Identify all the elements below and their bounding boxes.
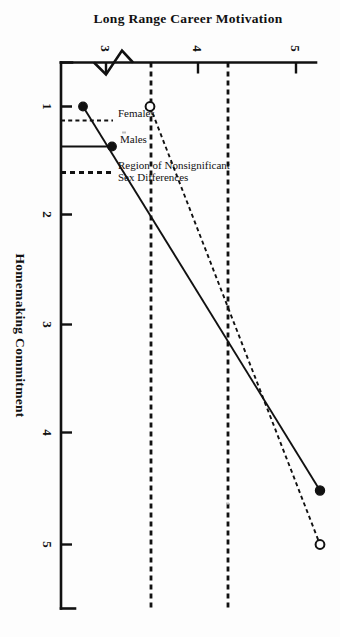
females-point-x5 (316, 540, 325, 549)
x-tick-label-2: 2 (40, 211, 55, 218)
legend-label-females: Females (118, 106, 155, 118)
males-point-x1 (79, 102, 88, 111)
scan-speck-bottom (122, 131, 126, 133)
legend-label-region-line1: Region of Nonsignificant (118, 158, 230, 170)
x-tick-label-3: 3 (40, 321, 55, 328)
nonsignificant-region (151, 62, 228, 608)
x-axis-title: Homemaking Commitment (13, 253, 28, 417)
y-axis-title: Long Range Career Motivation (93, 10, 282, 25)
males-point-x5 (315, 485, 324, 494)
line-chart-svg: 1 2 3 4 5 Homemaking Commitment 3 (0, 0, 340, 637)
y-tick-label-5: 5 (288, 45, 303, 52)
y-axis: 3 4 5 Long Range Career Motivation (61, 10, 316, 74)
rotated-figure-stage: 1 2 3 4 5 Homemaking Commitment 3 (0, 0, 340, 637)
y-tick-label-4: 4 (190, 45, 205, 52)
figure-page: 1 2 3 4 5 Homemaking Commitment 3 (0, 0, 340, 637)
legend-item-females: Females (61, 106, 155, 120)
x-tick-label-4: 4 (40, 429, 55, 436)
x-axis: 1 2 3 4 5 Homemaking Commitment (13, 62, 75, 608)
legend: Females Males Region of Nonsignificant S… (61, 106, 230, 182)
legend-swatch-males-marker (108, 142, 117, 151)
legend-label-males: Males (120, 132, 147, 144)
legend-item-region: Region of Nonsignificant Sex Differences (61, 158, 230, 182)
y-tick-label-3: 3 (98, 45, 113, 52)
scan-speck-top (226, 502, 229, 504)
x-tick-label-1: 1 (40, 103, 55, 110)
x-tick-label-5: 5 (40, 541, 55, 548)
chart-plot-area: 1 2 3 4 5 Homemaking Commitment 3 (0, 0, 340, 637)
legend-label-region-line2: Sex Differences (118, 170, 188, 182)
